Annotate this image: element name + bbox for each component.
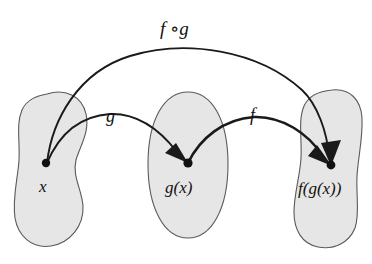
point-x — [42, 159, 50, 167]
label-g: g — [106, 106, 115, 126]
label-point-gx: g(x) — [165, 178, 193, 197]
point-gx — [183, 158, 192, 167]
label-point-fgx: f(g(x)) — [298, 179, 342, 198]
blob-domain-set — [14, 92, 87, 246]
label-f-compose-g: f ∘g — [160, 18, 189, 39]
composition-diagram-canvas: f ∘g g f x g(x) f(g(x)) — [0, 0, 372, 264]
label-f: f — [250, 105, 258, 125]
label-point-x: x — [38, 177, 47, 196]
point-fgx — [327, 161, 336, 170]
blob-codomain-set — [294, 90, 362, 248]
function-composition-diagram: f ∘g g f x g(x) f(g(x)) — [0, 0, 372, 264]
